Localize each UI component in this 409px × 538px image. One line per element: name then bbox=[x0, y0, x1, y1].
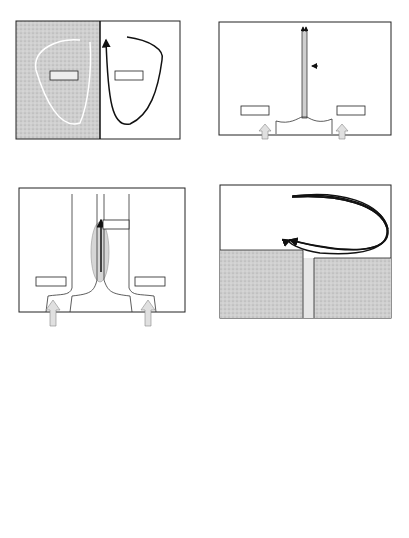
high-permeability-lens bbox=[302, 30, 307, 118]
panel-c bbox=[19, 188, 185, 326]
lens bbox=[91, 222, 109, 282]
flow-loop-b bbox=[106, 37, 162, 124]
panel-b bbox=[219, 22, 391, 139]
panel-a bbox=[16, 21, 180, 139]
panel-d bbox=[220, 185, 391, 318]
figure-canvas bbox=[0, 0, 409, 538]
